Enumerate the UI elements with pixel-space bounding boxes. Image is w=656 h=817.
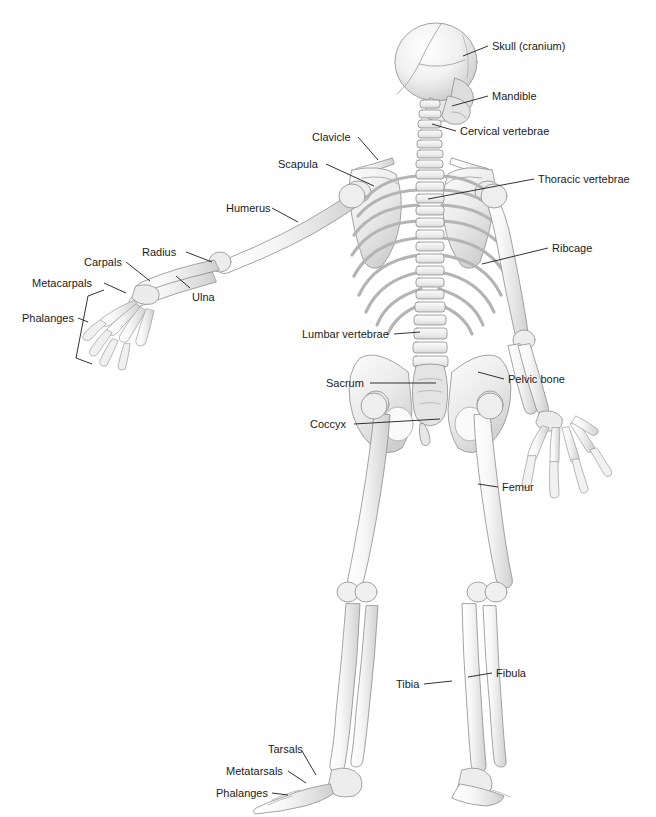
- skeleton-illustration: [0, 0, 656, 817]
- label-sacrum: Sacrum: [326, 377, 364, 389]
- label-metatarsals: Metatarsals: [226, 765, 283, 777]
- skeleton-diagram: Skull (cranium)MandibleCervical vertebra…: [0, 0, 656, 817]
- label-scapula: Scapula: [278, 158, 318, 170]
- label-cervical: Cervical vertebrae: [460, 125, 549, 137]
- label-ulna: Ulna: [192, 291, 215, 303]
- label-ribcage: Ribcage: [552, 242, 592, 254]
- label-fibula: Fibula: [496, 667, 526, 679]
- right-arm: [481, 184, 612, 498]
- label-phalanges_hand: Phalanges: [22, 312, 74, 324]
- label-thoracic: Thoracic vertebrae: [538, 173, 630, 185]
- skull-group: [395, 23, 477, 124]
- label-coccyx: Coccyx: [310, 418, 346, 430]
- cervical-spine: [416, 100, 443, 168]
- label-carpals: Carpals: [84, 256, 122, 268]
- right-leg: [452, 393, 512, 806]
- label-clavicle: Clavicle: [312, 131, 351, 143]
- label-lumbar: Lumbar vertebrae: [302, 328, 389, 340]
- label-pelvic_bone: Pelvic bone: [508, 373, 565, 385]
- label-tarsals: Tarsals: [268, 743, 303, 755]
- label-mandible: Mandible: [492, 90, 537, 102]
- vertebral-column: [413, 170, 448, 367]
- label-metacarpals: Metacarpals: [32, 277, 92, 289]
- label-humerus: Humerus: [226, 202, 271, 214]
- label-femur: Femur: [502, 481, 534, 493]
- left-arm: [83, 184, 365, 370]
- label-phalanges_foot: Phalanges: [216, 787, 268, 799]
- label-radius: Radius: [142, 246, 176, 258]
- label-skull: Skull (cranium): [492, 40, 565, 52]
- label-tibia: Tibia: [396, 678, 419, 690]
